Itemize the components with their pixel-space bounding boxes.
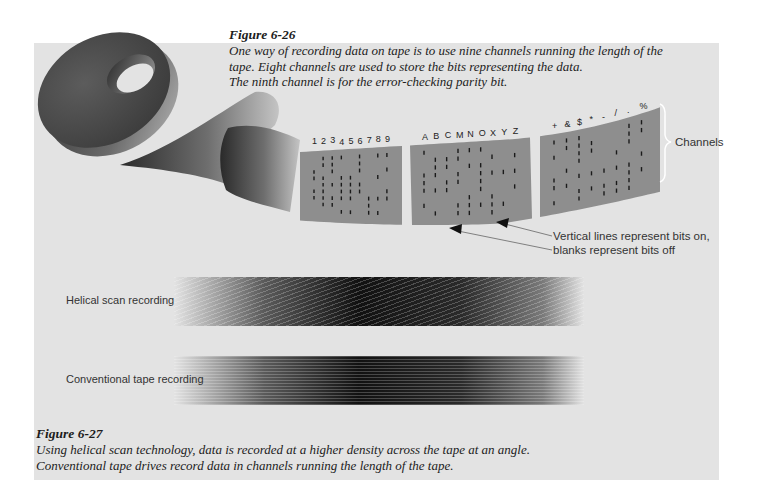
svg-text:N: N [467,129,474,139]
svg-text:8: 8 [376,134,381,144]
svg-text:C: C [445,130,452,140]
svg-text:/: / [615,108,618,118]
svg-text:B: B [433,131,439,141]
channels-label: Channels [675,136,724,148]
svg-text:%: % [640,101,648,111]
svg-text:5: 5 [348,136,353,146]
caption-line: Conventional tape drives record data in … [36,458,530,474]
svg-text:1: 1 [312,136,317,146]
figure-6-27-title: Figure 6-27 [36,426,530,442]
svg-text:7: 7 [367,135,372,145]
svg-text:2: 2 [321,136,326,146]
svg-text:&: & [565,119,571,129]
caption-line: tape. Eight channels are used to store t… [229,59,663,75]
helical-scan-label: Helical scan recording [66,294,174,306]
svg-text:Y: Y [501,127,507,137]
tape-data-segments: 123456789ABCMNOXYZ+&$*-/.% [300,101,660,225]
svg-text:.: . [627,105,630,115]
figure-6-26-caption: Figure 6-26 One way of recording data on… [229,27,663,90]
svg-text:9: 9 [385,134,390,144]
svg-text:+: + [552,121,557,131]
svg-text:6: 6 [358,136,363,146]
svg-text:A: A [422,132,428,142]
annotation-line: Vertical lines represent bits on, [553,229,710,243]
svg-text:Z: Z [513,126,519,136]
svg-text:$: $ [577,117,582,127]
svg-text:X: X [490,128,496,138]
figure-6-26-title: Figure 6-26 [229,27,663,43]
caption-line: The ninth channel is for the error-check… [229,74,663,90]
conventional-recording-bar [174,356,584,405]
bits-annotation: Vertical lines represent bits on, blanks… [553,229,710,257]
caption-line: Using helical scan technology, data is r… [36,442,530,458]
caption-line: One way of recording data on tape is to … [229,43,663,59]
svg-text:O: O [479,128,486,138]
conventional-recording-label: Conventional tape recording [66,373,204,385]
svg-text:M: M [456,130,464,140]
svg-text:3: 3 [330,135,335,145]
svg-text:*: * [590,114,594,124]
svg-text:4: 4 [339,137,344,147]
svg-text:-: - [602,112,605,122]
tape-ribbon-curl [220,126,300,212]
figure-6-27-caption: Figure 6-27 Using helical scan technolog… [36,426,530,473]
channels-brace-icon [660,104,671,182]
annotation-line: blanks represent bits off [553,243,710,257]
helical-scan-bar [174,277,584,326]
